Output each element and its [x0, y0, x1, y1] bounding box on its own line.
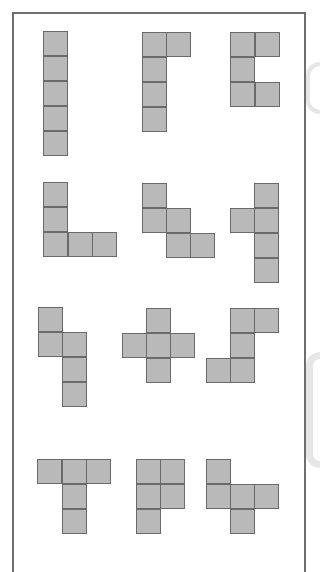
- pentomino-cell: [43, 207, 68, 232]
- pentomino-cell: [146, 333, 171, 358]
- pentomino-cell: [43, 232, 68, 257]
- pentomino-cell: [230, 208, 255, 233]
- pentomino-cell: [190, 233, 215, 258]
- pentomino-cell: [43, 182, 68, 207]
- pentomino-cell: [136, 509, 161, 534]
- pentomino-cell: [254, 484, 279, 509]
- pentomino-cell: [43, 31, 68, 56]
- pentomino-cell: [206, 484, 231, 509]
- watermark-arc-bottom: [306, 352, 320, 468]
- pentomino-cell: [255, 32, 280, 57]
- pentomino-cell: [142, 107, 167, 132]
- pentomino-cell: [255, 82, 280, 107]
- pentomino-cell: [230, 57, 255, 82]
- pentomino-cell: [166, 208, 191, 233]
- pentomino-cell: [146, 358, 171, 383]
- pentomino-cell: [122, 333, 147, 358]
- pentomino-cell: [62, 382, 87, 407]
- pentomino-cell: [43, 81, 68, 106]
- pentomino-cell: [62, 459, 87, 484]
- pentomino-cell: [43, 106, 68, 131]
- pentomino-cell: [166, 32, 191, 57]
- pentomino-cell: [142, 82, 167, 107]
- pentomino-cell: [146, 308, 171, 333]
- pentomino-cell: [160, 484, 185, 509]
- watermark-arc-top: [306, 62, 320, 114]
- pentomino-cell: [254, 258, 279, 283]
- pentomino-cell: [136, 484, 161, 509]
- pentomino-cell: [230, 484, 255, 509]
- pentomino-cell: [230, 82, 255, 107]
- pentomino-cell: [68, 232, 93, 257]
- pentomino-cell: [230, 333, 255, 358]
- pentomino-cell: [142, 183, 167, 208]
- pentomino-cell: [142, 32, 167, 57]
- pentomino-cell: [62, 484, 87, 509]
- pentomino-cell: [62, 509, 87, 534]
- pentomino-cell: [37, 459, 62, 484]
- pentomino-cell: [230, 509, 255, 534]
- pentomino-cell: [254, 183, 279, 208]
- pentomino-cell: [62, 332, 87, 357]
- pentomino-cell: [166, 233, 191, 258]
- pentomino-cell: [142, 208, 167, 233]
- pentomino-cell: [92, 232, 117, 257]
- pentomino-cell: [43, 131, 68, 156]
- pentomino-cell: [254, 233, 279, 258]
- pentomino-cell: [160, 459, 185, 484]
- pentomino-cell: [230, 358, 255, 383]
- pentomino-cell: [254, 208, 279, 233]
- pentomino-cell: [38, 307, 63, 332]
- pentomino-cell: [43, 56, 68, 81]
- pentomino-cell: [230, 32, 255, 57]
- pentomino-cell: [136, 459, 161, 484]
- pentomino-cell: [206, 459, 231, 484]
- pentomino-cell: [142, 57, 167, 82]
- pentomino-cell: [254, 308, 279, 333]
- pentomino-cell: [38, 332, 63, 357]
- pentomino-cell: [206, 358, 231, 383]
- pentomino-cell: [86, 459, 111, 484]
- pentomino-cell: [170, 333, 195, 358]
- pentomino-cell: [62, 357, 87, 382]
- pentomino-cell: [230, 308, 255, 333]
